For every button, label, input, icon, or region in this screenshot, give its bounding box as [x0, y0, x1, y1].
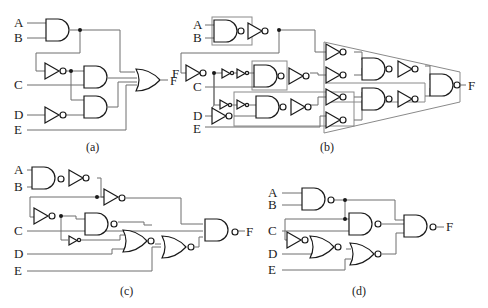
- output-label-f: F: [468, 78, 475, 93]
- nand-gate-ab: [214, 20, 237, 42]
- inversion-bubble: [60, 112, 66, 118]
- and-gate-c: [84, 66, 107, 88]
- input-label-c: C: [14, 223, 23, 238]
- caption-c: (c): [120, 284, 133, 298]
- inversion-bubble: [305, 104, 311, 110]
- or-gate-output: [136, 69, 160, 91]
- not-gate: [398, 91, 412, 107]
- input-label-d: D: [14, 107, 23, 122]
- panel-b: A B F C D E F (b): [172, 17, 475, 154]
- nand-gate-output: [430, 74, 453, 96]
- inversion-bubble: [340, 94, 346, 100]
- input-label-b: B: [268, 197, 277, 212]
- inversion-bubble: [278, 73, 284, 79]
- nand-gate: [85, 213, 108, 235]
- inversion-bubble: [228, 103, 231, 106]
- not-gate-1: [45, 63, 59, 79]
- input-label-d: D: [14, 246, 23, 261]
- junction-dot: [212, 71, 216, 75]
- input-label-e: E: [193, 121, 201, 136]
- input-label-c: C: [14, 77, 23, 92]
- and-gate-ab: [46, 19, 69, 41]
- inversion-bubble: [340, 72, 346, 78]
- nand-gate-c: [254, 65, 277, 87]
- junction-dot: [78, 28, 82, 32]
- inversion-bubble: [328, 197, 334, 203]
- input-label-e: E: [14, 122, 22, 137]
- inversion-bubble: [280, 104, 286, 110]
- inversion-bubble: [303, 73, 309, 79]
- inversion-bubble: [148, 238, 154, 244]
- caption-d: (d): [352, 284, 366, 298]
- not-gate-d: [212, 108, 226, 124]
- feedback-label-f: F: [172, 66, 179, 81]
- nor-gate-1: [310, 236, 334, 258]
- inversion-bubble: [386, 66, 392, 72]
- input-label-e: E: [14, 263, 22, 278]
- input-label-e: E: [268, 262, 276, 277]
- not-gate: [291, 99, 305, 115]
- inversion-bubble: [83, 175, 89, 181]
- inversion-bubble: [200, 70, 206, 76]
- junction-dot: [343, 217, 347, 221]
- buffer-not: [237, 69, 245, 78]
- nand-gate-lower: [362, 88, 385, 110]
- junction-dot: [69, 69, 73, 73]
- nor-gate-2: [350, 243, 374, 265]
- inversion-bubble: [302, 237, 308, 243]
- inversion-bubble: [188, 244, 194, 250]
- not-gate-d: [45, 107, 59, 123]
- input-label-c: C: [268, 223, 277, 238]
- inversion-bubble: [245, 103, 248, 106]
- inversion-bubble: [340, 49, 346, 55]
- inversion-bubble: [58, 176, 64, 182]
- inversion-bubble: [430, 224, 436, 230]
- junction-dot: [95, 195, 99, 199]
- nand-gate-upper: [362, 58, 385, 80]
- inversion-bubble: [375, 251, 381, 257]
- inversion-bubble: [238, 28, 244, 34]
- buffer-not: [222, 69, 230, 78]
- not-gate: [34, 208, 48, 224]
- nand-gate: [256, 96, 279, 118]
- not-array-1: [326, 44, 340, 60]
- output-label-f: F: [446, 219, 453, 234]
- not-gate: [69, 170, 83, 186]
- input-label-a: A: [14, 15, 24, 30]
- not-array-3: [326, 89, 340, 105]
- inversion-bubble: [386, 96, 392, 102]
- input-label-c: C: [193, 79, 202, 94]
- inversion-bubble: [412, 66, 418, 72]
- output-label-f: F: [246, 224, 253, 239]
- nor-gate-1: [123, 230, 147, 252]
- inversion-bubble: [226, 113, 232, 119]
- junction-dot: [343, 198, 347, 202]
- nor-gate-2: [162, 236, 186, 258]
- input-label-d: D: [268, 246, 277, 261]
- junction-dot: [277, 28, 281, 32]
- nand-gate-c: [349, 213, 372, 235]
- and-gate-2: [84, 96, 107, 118]
- inversion-bubble: [232, 229, 238, 235]
- input-label-b: B: [193, 30, 202, 45]
- input-label-b: B: [14, 179, 23, 194]
- inversion-bubble: [245, 71, 248, 74]
- inversion-bubble: [340, 117, 346, 123]
- inversion-bubble: [111, 221, 117, 227]
- input-label-a: A: [14, 162, 24, 177]
- nand-gate-ab: [32, 167, 55, 189]
- input-label-b: B: [14, 30, 23, 45]
- not-gate: [398, 61, 412, 77]
- panel-d: A B C D E F (d): [268, 185, 453, 298]
- inversion-bubble: [262, 28, 268, 34]
- not-gate: [287, 232, 301, 248]
- nand-gate-output: [404, 215, 427, 237]
- inversion-bubble: [454, 82, 460, 88]
- inversion-bubble: [375, 221, 381, 227]
- inversion-bubble: [77, 238, 80, 241]
- nand-gate-output: [205, 219, 228, 241]
- inversion-bubble: [335, 244, 341, 250]
- not-gate: [289, 68, 303, 84]
- nand-gate-ab: [302, 188, 325, 210]
- caption-b: (b): [320, 140, 334, 154]
